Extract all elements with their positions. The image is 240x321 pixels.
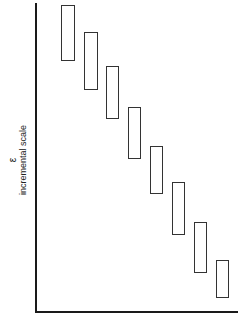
y-axis-label-text: ε incremental scale — [7, 125, 29, 195]
interval-box-7 — [194, 222, 207, 273]
interval-box-5 — [150, 146, 163, 194]
x-axis-line — [35, 311, 238, 313]
interval-box-6 — [172, 182, 185, 235]
interval-box-4 — [128, 107, 141, 159]
interval-box-3 — [106, 66, 119, 119]
staircase-diagram: ε incremental scale — [0, 0, 240, 321]
y-axis-line — [35, 3, 37, 312]
interval-box-2 — [84, 32, 98, 90]
interval-box-1 — [61, 5, 75, 61]
incremental-scale-label: incremental scale — [18, 125, 28, 195]
epsilon-symbol: ε — [7, 125, 18, 195]
interval-box-8 — [216, 260, 229, 298]
